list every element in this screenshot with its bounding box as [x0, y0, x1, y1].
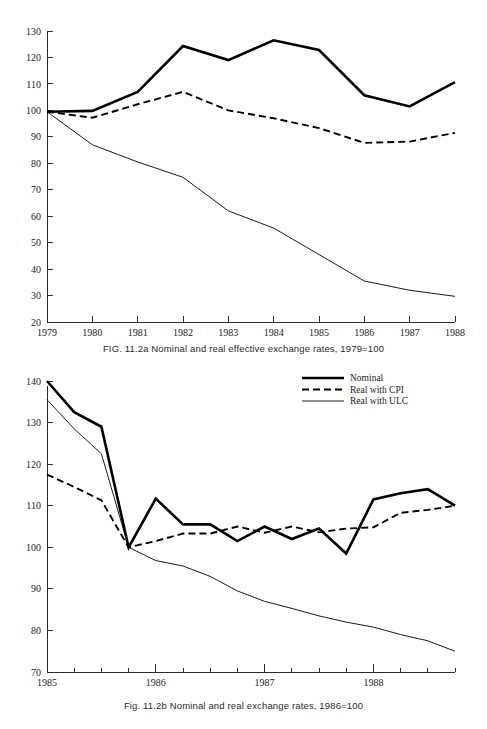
x-tick-label-b: 1988	[363, 677, 383, 688]
figure-11-2a: 2030405060708090100110120130197919801981…	[0, 0, 487, 365]
y-tick-label-a: 30	[31, 290, 41, 301]
figure-11-2b-caption: Fig. 11.2b Nominal and real exchange rat…	[0, 700, 487, 711]
y-tick-label-a: 120	[26, 52, 41, 63]
y-tick-label-b: 100	[26, 542, 41, 553]
y-tick-label-a: 40	[31, 264, 41, 275]
y-tick-label-b: 110	[26, 500, 41, 511]
legend-label-real-with-cpi: Real with CPI	[350, 385, 404, 395]
y-tick-label-b: 90	[31, 583, 41, 594]
y-tick-label-a: 110	[26, 79, 41, 90]
x-tick-label-a: 1981	[128, 327, 148, 338]
y-tick-label-b: 70	[31, 667, 41, 678]
y-tick-label-a: 130	[26, 26, 41, 37]
chart-11-2a-plot: 2030405060708090100110120130197919801981…	[0, 0, 487, 340]
y-tick-label-a: 20	[31, 317, 41, 328]
figure-page: 2030405060708090100110120130197919801981…	[0, 0, 487, 729]
x-tick-label-b: 1987	[255, 677, 275, 688]
series-line-nominal	[47, 381, 455, 554]
x-tick-label-a: 1986	[354, 327, 374, 338]
y-tick-label-a: 50	[31, 237, 41, 248]
x-tick-label-b: 1986	[146, 677, 166, 688]
x-tick-label-a: 1985	[309, 327, 329, 338]
x-tick-label-a: 1983	[218, 327, 238, 338]
x-tick-label-a: 1982	[173, 327, 193, 338]
legend-label-real-with-ulc: Real with ULC	[350, 396, 408, 406]
figure-11-2a-caption: FIG. 11.2a Nominal and real effective ex…	[0, 343, 487, 354]
series-line-nominal	[47, 40, 455, 111]
legend-label-nominal: Nominal	[350, 373, 384, 383]
x-tick-label-a: 1979	[37, 327, 57, 338]
y-tick-label-b: 120	[26, 459, 41, 470]
chart-legend: NominalReal with CPIReal with ULC	[302, 373, 408, 406]
x-tick-label-a: 1984	[264, 327, 284, 338]
y-tick-label-a: 100	[26, 105, 41, 116]
x-tick-label-b: 1985	[37, 677, 57, 688]
figure-11-2b: 7080901001101201301401985198619871988Nom…	[0, 368, 487, 729]
series-line-real-with-ulc	[47, 112, 455, 297]
y-tick-label-b: 130	[26, 417, 41, 428]
x-tick-label-a: 1988	[445, 327, 465, 338]
x-tick-label-a: 1980	[82, 327, 102, 338]
chart-11-2b-plot: 7080901001101201301401985198619871988Nom…	[0, 368, 487, 698]
y-tick-label-b: 80	[31, 625, 41, 636]
series-line-real-with-cpi	[47, 92, 455, 143]
y-tick-label-a: 60	[31, 211, 41, 222]
y-tick-label-a: 70	[31, 184, 41, 195]
x-tick-label-a: 1987	[400, 327, 420, 338]
y-tick-label-a: 80	[31, 158, 41, 169]
y-tick-label-b: 140	[26, 376, 41, 387]
series-line-real-with-ulc	[47, 400, 455, 651]
series-line-real-with-cpi	[47, 475, 455, 548]
y-tick-label-a: 90	[31, 131, 41, 142]
